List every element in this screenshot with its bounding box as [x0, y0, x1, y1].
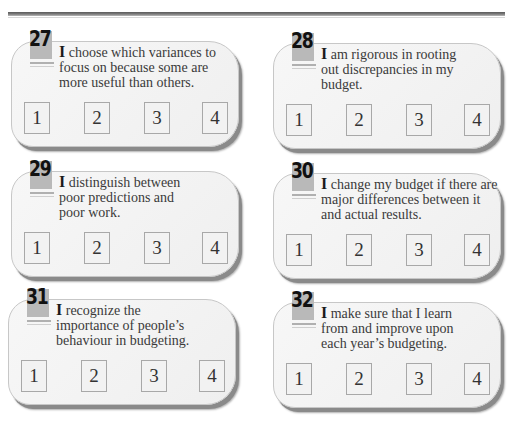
question-card-29: 29 I distinguish between poor prediction…: [11, 171, 239, 277]
rating-option-3[interactable]: 3: [141, 360, 167, 392]
badge-underline-light: [30, 66, 54, 67]
rating-option-2[interactable]: 2: [84, 232, 110, 264]
rating-option-1[interactable]: 1: [24, 232, 50, 264]
rating-option-2[interactable]: 2: [346, 363, 372, 395]
question-number-badge: 32: [292, 292, 314, 320]
question-statement: I distinguish between poor predictions a…: [59, 174, 199, 220]
rating-options: 1 2 3 4: [286, 363, 490, 393]
rating-option-2[interactable]: 2: [346, 234, 372, 266]
question-number: 30: [291, 161, 313, 182]
badge-underline-light: [30, 196, 54, 197]
question-number-badge: 27: [30, 31, 52, 59]
question-card-32: 32 I make sure that I learn from and imp…: [273, 302, 501, 408]
question-card-31: 31 I recognize the importance of people’…: [8, 299, 236, 405]
rating-option-1[interactable]: 1: [21, 360, 47, 392]
question-statement: I choose which variances to focus on bec…: [59, 44, 237, 90]
rating-option-4[interactable]: 4: [202, 102, 228, 134]
question-number: 28: [291, 31, 313, 52]
top-rule: [8, 12, 505, 16]
badge-underline: [292, 194, 316, 196]
badge-underline-light: [292, 68, 316, 69]
rating-option-4[interactable]: 4: [464, 104, 490, 136]
rating-option-3[interactable]: 3: [406, 104, 432, 136]
rating-options: 1 2 3 4: [24, 232, 228, 262]
rating-option-2[interactable]: 2: [346, 104, 372, 136]
rating-options: 1 2 3 4: [286, 104, 490, 134]
question-card-27: 27 I choose which variances to focus on …: [11, 41, 239, 147]
question-card-30: 30 I change my budget if there are major…: [273, 173, 501, 279]
question-card-28: 28 I am rigorous in rooting out discrepa…: [273, 43, 501, 149]
rating-option-1[interactable]: 1: [286, 104, 312, 136]
badge-underline: [27, 320, 51, 322]
badge-underline-light: [292, 327, 316, 328]
rating-option-4[interactable]: 4: [202, 232, 228, 264]
question-number-badge: 31: [27, 289, 49, 317]
badge-underline-light: [292, 198, 316, 199]
question-number-badge: 30: [292, 163, 314, 191]
top-rule-highlight: [8, 17, 505, 18]
rating-option-4[interactable]: 4: [464, 363, 490, 395]
badge-underline: [292, 323, 316, 325]
rating-option-1[interactable]: 1: [286, 234, 312, 266]
rating-option-2[interactable]: 2: [84, 102, 110, 134]
rating-option-4[interactable]: 4: [464, 234, 490, 266]
rating-option-3[interactable]: 3: [144, 232, 170, 264]
rating-option-3[interactable]: 3: [144, 102, 170, 134]
rating-option-1[interactable]: 1: [24, 102, 50, 134]
question-number: 31: [26, 287, 48, 308]
rating-options: 1 2 3 4: [286, 234, 490, 264]
question-number: 32: [291, 290, 313, 311]
badge-underline: [30, 192, 54, 194]
rating-option-1[interactable]: 1: [286, 363, 312, 395]
question-statement: I recognize the importance of people’s b…: [56, 302, 206, 348]
badge-underline: [30, 62, 54, 64]
rating-option-3[interactable]: 3: [406, 363, 432, 395]
rating-options: 1 2 3 4: [21, 360, 225, 390]
badge-underline: [292, 64, 316, 66]
question-number-badge: 28: [292, 33, 314, 61]
badge-underline-light: [27, 324, 51, 325]
question-number-badge: 29: [30, 161, 52, 189]
question-statement: I make sure that I learn from and improv…: [321, 305, 471, 351]
question-number: 29: [29, 159, 51, 180]
question-statement: I change my budget if there are major di…: [321, 176, 499, 222]
question-number: 27: [29, 29, 51, 50]
rating-options: 1 2 3 4: [24, 102, 228, 132]
rating-option-4[interactable]: 4: [199, 360, 225, 392]
rating-option-2[interactable]: 2: [81, 360, 107, 392]
question-statement: I am rigorous in rooting out discrepanci…: [321, 46, 471, 92]
rating-option-3[interactable]: 3: [406, 234, 432, 266]
